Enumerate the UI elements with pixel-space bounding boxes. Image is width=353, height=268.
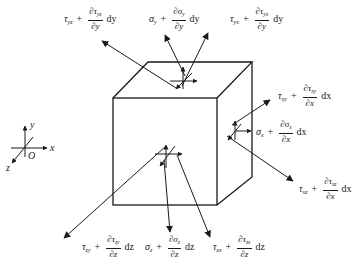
sigma-z-arrow bbox=[164, 160, 170, 232]
tau-yx-arrow bbox=[182, 33, 208, 86]
label-tau-yx: τyx + ∂τyx∂y dy bbox=[230, 6, 283, 32]
axis-label-z: z bbox=[6, 162, 10, 173]
tau-zy-arrow bbox=[64, 146, 166, 238]
top-face-arrows bbox=[102, 33, 208, 89]
label-sigma-x: σx + ∂σx∂x dx bbox=[256, 119, 307, 145]
label-tau-zx: τzx + ∂τzx∂z dz bbox=[213, 234, 265, 260]
tau-zx-arrow bbox=[177, 155, 210, 237]
axis-label-y: y bbox=[30, 119, 34, 130]
tau-yz-arrow bbox=[102, 41, 176, 88]
axis-label-origin: O bbox=[28, 150, 35, 161]
label-tau-zy: τzy + ∂τzy∂z dz bbox=[82, 234, 134, 260]
front-face-arrows bbox=[64, 145, 210, 238]
label-tau-xy: τxy + ∂τxy∂x dx bbox=[278, 83, 331, 109]
sigma-y-arrow bbox=[165, 35, 185, 76]
label-tau-xz: τxz + ∂τxz∂x dx bbox=[299, 176, 352, 202]
label-sigma-y: σy + ∂σy∂y dy bbox=[149, 6, 200, 32]
cube-front-face bbox=[113, 98, 217, 205]
axis-label-x: x bbox=[50, 142, 54, 153]
label-sigma-z: σz + ∂σz∂z dz bbox=[145, 234, 194, 260]
label-tau-yz: τyz + ∂τyz∂y dy bbox=[64, 6, 117, 32]
